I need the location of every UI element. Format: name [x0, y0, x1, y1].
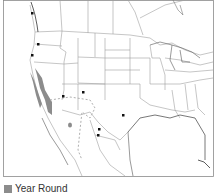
year-round-swatch	[4, 185, 12, 193]
legend: Year Round	[4, 183, 67, 195]
legend-label-year-round: Year Round	[15, 184, 67, 194]
range-map	[0, 0, 217, 178]
